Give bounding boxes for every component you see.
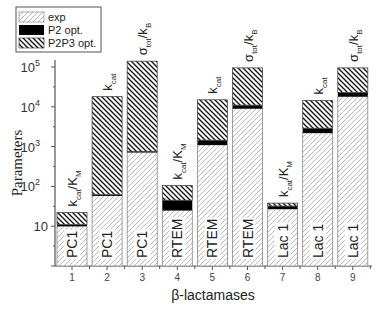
bar-8: Lac 1kcat	[303, 76, 333, 266]
segment-p2-opt	[197, 140, 227, 145]
x-tick-label: 5	[210, 272, 216, 283]
enzyme-label: RTEM	[240, 219, 256, 258]
x-tick-label: 1	[69, 272, 75, 283]
y-axis: 10102103104105	[21, 58, 55, 266]
y-tick-label: 104	[21, 98, 40, 115]
segment-p2p3-opt	[233, 68, 263, 105]
legend-label: exp	[48, 11, 66, 23]
x-tick-label: 6	[245, 272, 251, 283]
segment-p2-opt	[338, 92, 368, 96]
parameter-label: kcat/KM	[65, 170, 83, 206]
enzyme-label: PC1	[134, 231, 150, 258]
legend-label: P2P3 opt.	[48, 37, 96, 49]
segment-p2p3-opt	[92, 97, 122, 195]
enzyme-label: Lac 1	[275, 224, 291, 258]
parameter-label: σtot/kB	[346, 29, 364, 61]
parameter-label: kcat	[205, 76, 223, 94]
x-tick-label: 2	[104, 272, 110, 283]
y-tick-label: 10	[34, 219, 48, 234]
parameter-label: σtot/kB	[241, 29, 259, 61]
parameter-label: kcat/KM	[170, 143, 188, 179]
x-tick-label: 3	[139, 272, 145, 283]
parameter-label: σtot/kB	[135, 23, 153, 55]
segment-p2-opt	[303, 128, 333, 133]
bars: PC1kcat/KMPC1kcatPC1σtot/kBRTEMkcat/KMRT…	[57, 23, 368, 266]
parameter-label: kcat/KM	[276, 161, 294, 197]
x-tick-label: 8	[315, 272, 321, 283]
x-axis: 123456789	[55, 266, 372, 283]
bar-chart: exp P2 opt. P2P3 opt. 10102103104105 123…	[0, 0, 377, 311]
bar-2: PC1kcat	[92, 73, 122, 266]
segment-p2-opt	[268, 206, 298, 209]
x-axis-label: β-lactamases	[171, 287, 255, 303]
segment-p2p3-opt	[303, 100, 333, 128]
legend-item-p2p3-opt: P2P3 opt.	[19, 37, 96, 49]
legend-item-exp: exp	[19, 11, 66, 23]
enzyme-label: RTEM	[169, 219, 185, 258]
parameter-label: kcat	[311, 76, 329, 94]
y-axis-label: Parameters	[9, 130, 25, 197]
segment-p2p3-opt	[57, 213, 87, 225]
segment-p2p3-opt	[127, 61, 157, 151]
enzyme-label: Lac 1	[310, 224, 326, 258]
bar-4: RTEMkcat/KM	[162, 143, 192, 266]
segment-p2p3-opt	[162, 186, 192, 201]
bar-3: PC1σtot/kB	[127, 23, 157, 266]
legend-item-p2-opt: P2 opt.	[19, 24, 83, 36]
bar-9: Lac 1σtot/kB	[338, 29, 368, 266]
legend: exp P2 opt. P2P3 opt.	[16, 7, 101, 52]
segment-p2-opt	[233, 105, 263, 108]
enzyme-label: PC1	[64, 231, 80, 258]
legend-label: P2 opt.	[48, 24, 83, 36]
segment-p2p3-opt	[338, 68, 368, 93]
segment-p2-opt	[162, 200, 192, 210]
bar-6: RTEMσtot/kB	[233, 29, 263, 266]
x-tick-label: 4	[175, 272, 181, 283]
x-tick-label: 9	[350, 272, 356, 283]
x-tick-label: 7	[280, 272, 286, 283]
y-tick-label: 105	[21, 58, 40, 75]
parameter-label: kcat	[100, 73, 118, 91]
bar-1: PC1kcat/KM	[57, 170, 87, 266]
bar-5: RTEMkcat	[197, 76, 227, 266]
segment-p2p3-opt	[197, 100, 227, 140]
segment-p2p3-opt	[268, 203, 298, 206]
enzyme-label: PC1	[99, 231, 115, 258]
enzyme-label: Lac 1	[345, 224, 361, 258]
bar-7: Lac 1kcat/KM	[268, 161, 298, 266]
enzyme-label: RTEM	[204, 219, 220, 258]
